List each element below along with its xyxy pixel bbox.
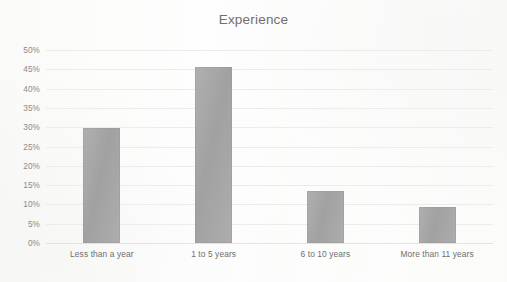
chart-title: Experience: [0, 12, 507, 27]
bar: [195, 67, 232, 243]
y-axis-tick-label: 0%: [28, 239, 40, 248]
y-axis-tick-label: 20%: [23, 161, 40, 170]
y-axis-tick-label: 45%: [23, 65, 40, 74]
gridline: 35%: [46, 108, 493, 109]
y-axis-tick-label: 30%: [23, 123, 40, 132]
y-axis-tick-label: 35%: [23, 103, 40, 112]
y-axis-tick-label: 5%: [28, 219, 40, 228]
x-axis-category-label: 6 to 10 years: [301, 249, 351, 259]
y-axis-tick-label: 10%: [23, 200, 40, 209]
bar: [83, 128, 120, 243]
y-axis-tick-label: 25%: [23, 142, 40, 151]
gridline: 50%: [46, 50, 493, 51]
y-axis-tick-label: 40%: [23, 84, 40, 93]
bar-chart: Experience 0%5%10%15%20%25%30%35%40%45%5…: [0, 0, 507, 282]
gridline: 40%: [46, 89, 493, 90]
plot-area: 0%5%10%15%20%25%30%35%40%45%50%: [46, 50, 493, 243]
x-axis-category-label: 1 to 5 years: [191, 249, 236, 259]
gridline: 0%: [46, 243, 493, 244]
x-axis-category-label: Less than a year: [70, 249, 134, 259]
x-axis-category-label: More than 11 years: [400, 249, 473, 259]
bar: [307, 191, 344, 243]
gridline: 45%: [46, 69, 493, 70]
y-axis-tick-label: 50%: [23, 46, 40, 55]
y-axis-tick-label: 15%: [23, 181, 40, 190]
bar: [419, 207, 456, 243]
